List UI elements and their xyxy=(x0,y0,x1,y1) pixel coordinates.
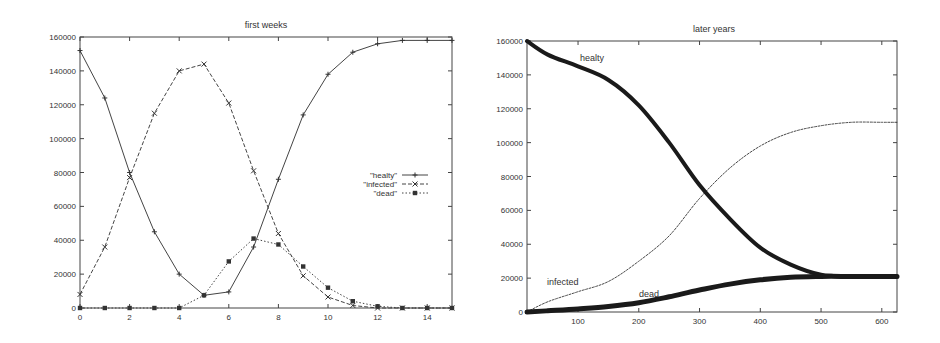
x-tick-label: 0 xyxy=(78,313,83,322)
series-dead xyxy=(527,276,897,312)
x-tick-label: 6 xyxy=(227,313,232,322)
y-tick-label: 100000 xyxy=(49,135,76,144)
legend-label-dead: "dead" xyxy=(374,189,398,198)
x-tick-label: 12 xyxy=(373,313,382,322)
legend-label-infected: "infected" xyxy=(363,180,397,189)
y-tick-label: 60000 xyxy=(501,206,524,215)
y-tick-label: 160000 xyxy=(496,37,523,46)
series-infected xyxy=(527,122,897,312)
y-tick-label: 80000 xyxy=(54,169,77,178)
x-tick-label: 600 xyxy=(875,317,889,326)
y-tick-label: 0 xyxy=(519,308,524,317)
series-healty xyxy=(527,41,897,277)
y-tick-label: 60000 xyxy=(54,202,77,211)
chart-title: first weeks xyxy=(245,20,288,30)
chart-later-years: later years 0200004000060000800001000001… xyxy=(470,0,940,343)
y-tick-label: 100000 xyxy=(496,139,523,148)
x-tick-label: 100 xyxy=(571,317,585,326)
x-tick-label: 8 xyxy=(276,313,281,322)
y-tick-label: 0 xyxy=(72,304,77,313)
y-tick-label: 120000 xyxy=(496,105,523,114)
series-healty xyxy=(78,38,455,298)
x-tick-label: 200 xyxy=(632,317,646,326)
y-tick-label: 80000 xyxy=(501,173,524,182)
x-tick-label: 500 xyxy=(814,317,828,326)
x-tick-label: 10 xyxy=(324,313,333,322)
chart-title: later years xyxy=(693,24,736,34)
plot-area xyxy=(78,38,455,311)
x-tick-label: 2 xyxy=(127,313,132,322)
x-tick-label: 300 xyxy=(693,317,707,326)
chart-first-weeks: first weeks 0200004000060000800001000001… xyxy=(0,0,470,343)
series-dead xyxy=(78,236,454,310)
y-tick-label: 140000 xyxy=(496,71,523,80)
y-tick-label: 20000 xyxy=(54,270,77,279)
legend: "healty" "infected" "dead" xyxy=(363,171,428,198)
y-tick-label: 160000 xyxy=(49,33,76,42)
figure: first weeks 0200004000060000800001000001… xyxy=(0,0,940,343)
y-tick-label: 20000 xyxy=(501,274,524,283)
plot-area xyxy=(527,41,897,312)
plot-frame xyxy=(527,41,897,312)
x-tick-label: 400 xyxy=(754,317,768,326)
annotation-infected: infected xyxy=(547,277,579,287)
legend-label-healty: "healty" xyxy=(370,171,397,180)
x-tick-label: 14 xyxy=(423,313,432,322)
y-tick-label: 40000 xyxy=(54,236,77,245)
x-tick-label: 4 xyxy=(177,313,182,322)
y-tick-label: 40000 xyxy=(501,240,524,249)
annotation-dead: dead xyxy=(639,289,659,299)
series-infected xyxy=(78,62,455,311)
y-tick-label: 140000 xyxy=(49,67,76,76)
y-tick-label: 120000 xyxy=(49,101,76,110)
annotation-healty: healty xyxy=(580,53,605,63)
